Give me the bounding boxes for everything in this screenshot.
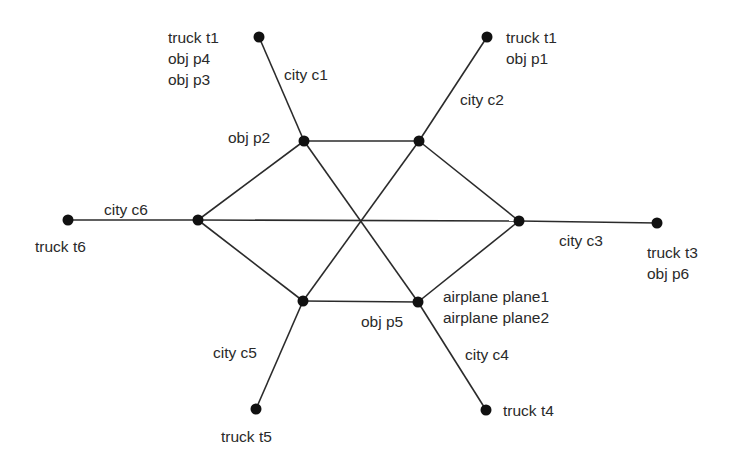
node-c4-out [481, 405, 492, 416]
label-line: airplane plane2 [443, 307, 549, 328]
label-c1-city: city c1 [284, 64, 328, 85]
node-c3-hub [514, 216, 525, 227]
label-c3-city: city c3 [559, 230, 603, 251]
label-line: city c1 [284, 64, 328, 85]
label-line: obj p3 [168, 69, 219, 90]
edge-c3-hub-c3-out [519, 221, 657, 223]
edge-c5-hub-c5-out [256, 301, 303, 409]
edge-c5-hub-c6-hub [198, 220, 303, 301]
label-c5-city: city c5 [213, 342, 257, 363]
node-c5-out [251, 404, 262, 415]
label-line: airplane plane1 [443, 286, 549, 307]
label-c1-hub-items: obj p2 [228, 127, 270, 148]
node-c2-out [482, 32, 493, 43]
label-line: city c2 [460, 89, 504, 110]
node-c1-hub [299, 136, 310, 147]
label-line: obj p4 [168, 48, 219, 69]
node-c6-out [63, 215, 74, 226]
edge-group [68, 37, 657, 410]
label-c4-out-items: truck t4 [503, 400, 554, 421]
label-line: truck t1 [168, 27, 219, 48]
label-line: city c5 [213, 342, 257, 363]
label-line: truck t3 [647, 242, 698, 263]
edge-c6-hub-c3-hub [198, 220, 519, 221]
label-line: city c3 [559, 230, 603, 251]
network-diagram [0, 0, 745, 464]
label-line: truck t5 [221, 426, 272, 447]
label-line: city c6 [104, 199, 148, 220]
label-c4-hub-items: airplane plane1airplane plane2 [443, 286, 549, 328]
node-c4-hub [413, 297, 424, 308]
label-line: truck t4 [503, 400, 554, 421]
label-c4-city: city c4 [465, 344, 509, 365]
node-c6-hub [193, 215, 204, 226]
label-line: obj p2 [228, 127, 270, 148]
node-c1-out [254, 32, 265, 43]
node-c3-out [652, 218, 663, 229]
label-line: obj p1 [506, 48, 557, 69]
label-c6-city: city c6 [104, 199, 148, 220]
node-c2-hub [414, 136, 425, 147]
label-c2-city: city c2 [460, 89, 504, 110]
edge-c4-hub-c5-hub [303, 301, 418, 302]
edge-c1-hub-c1-out [259, 37, 304, 141]
label-c4-hub-below: obj p5 [361, 311, 403, 332]
label-c3-out-items: truck t3obj p6 [647, 242, 698, 284]
label-line: city c4 [465, 344, 509, 365]
label-line: truck t1 [506, 27, 557, 48]
label-line: obj p6 [647, 263, 698, 284]
edge-c2-hub-c3-hub [419, 141, 519, 221]
label-c5-out-items: truck t5 [221, 426, 272, 447]
node-c5-hub [298, 296, 309, 307]
label-c2-out-items: truck t1obj p1 [506, 27, 557, 69]
edge-c6-hub-c1-hub [198, 141, 304, 220]
label-c6-out-items: truck t6 [35, 236, 86, 257]
label-line: obj p5 [361, 311, 403, 332]
label-line: truck t6 [35, 236, 86, 257]
label-c1-out-items: truck t1obj p4obj p3 [168, 27, 219, 90]
